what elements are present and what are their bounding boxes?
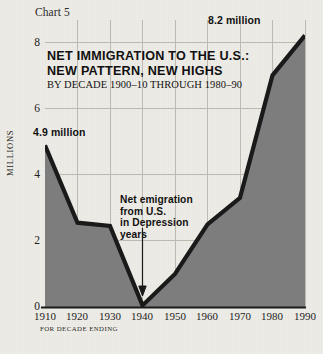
y-tick-6: 6	[18, 102, 40, 114]
y-tick-8: 8	[18, 36, 40, 48]
annotation-line-1: Net emigration	[120, 194, 193, 206]
callout-peak-1910: 4.9 million	[33, 126, 85, 138]
chart-subtitle: BY DECADE 1900–10 THROUGH 1980–90	[47, 79, 242, 90]
chart-title-line-1: NET IMMIGRATION TO THE U.S.:	[47, 49, 249, 63]
y-tick-4: 4	[18, 168, 40, 180]
annotation-line-3: in Depression	[120, 217, 193, 229]
callout-peak-1990: 8.2 million	[208, 14, 260, 26]
x-axis-note: FOR DECADE ENDING	[40, 325, 118, 332]
chart-title-line-2: NEW PATTERN, NEW HIGHS	[47, 64, 262, 79]
annotation-depression: Net emigration from U.S. in Depression y…	[120, 194, 193, 240]
y-axis-label: MILLIONS	[5, 130, 15, 176]
annotation-line-4: years	[120, 229, 193, 241]
annotation-line-2: from U.S.	[120, 206, 193, 218]
y-tick-2: 2	[18, 234, 40, 246]
x-tick-1990: 1990	[285, 310, 323, 322]
chart-figure: Chart 5	[0, 0, 323, 354]
chart-title: NET IMMIGRATION TO THE U.S.: NEW PATTERN…	[47, 49, 262, 78]
